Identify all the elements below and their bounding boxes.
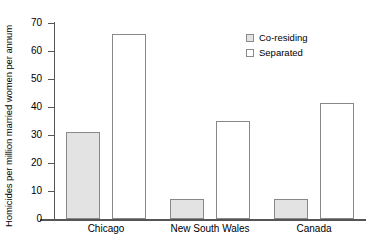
bar-separated-canada bbox=[320, 103, 354, 219]
bar-co-residing-new-south-wales bbox=[170, 199, 204, 219]
bar-co-residing-chicago bbox=[66, 132, 100, 219]
bar-chart: Homicides per million married women per … bbox=[0, 0, 372, 252]
x-axis-line bbox=[40, 219, 366, 221]
bar-co-residing-canada bbox=[274, 199, 308, 219]
legend-swatch-icon bbox=[246, 34, 254, 42]
legend: Co-residingSeparated bbox=[246, 31, 308, 61]
x-axis-label-chicago: Chicago bbox=[54, 223, 158, 234]
legend-item-separated[interactable]: Separated bbox=[246, 46, 308, 59]
y-tick-label: 70 bbox=[14, 18, 42, 28]
y-tick-label: 0 bbox=[14, 214, 42, 224]
y-tick-label: 20 bbox=[14, 158, 42, 168]
y-tick-label: 60 bbox=[14, 46, 42, 56]
y-tick-mark bbox=[48, 219, 54, 220]
y-tick-label: 10 bbox=[14, 186, 42, 196]
y-tick-label: 30 bbox=[14, 130, 42, 140]
y-tick-label: 50 bbox=[14, 74, 42, 84]
x-axis-label-new-south-wales: New South Wales bbox=[158, 223, 262, 234]
plot-area bbox=[54, 23, 366, 219]
legend-label: Separated bbox=[259, 48, 303, 58]
legend-swatch-icon bbox=[246, 49, 254, 57]
bar-separated-new-south-wales bbox=[216, 121, 250, 219]
x-axis-label-canada: Canada bbox=[262, 223, 366, 234]
bar-separated-chicago bbox=[112, 34, 146, 219]
legend-item-co-residing[interactable]: Co-residing bbox=[246, 31, 308, 44]
legend-label: Co-residing bbox=[259, 33, 308, 43]
y-tick-label: 40 bbox=[14, 102, 42, 112]
